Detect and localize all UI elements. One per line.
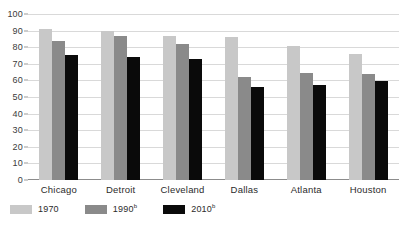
bar bbox=[349, 54, 362, 180]
bar bbox=[127, 57, 140, 180]
bar bbox=[163, 36, 176, 180]
bar-groups bbox=[28, 14, 399, 180]
y-axis-tick-label: 10 bbox=[13, 158, 23, 168]
legend-label-2010: 2010b bbox=[191, 204, 215, 214]
x-axis-label-houston: Houston bbox=[337, 184, 399, 200]
y-axis: 1009080706050403020100 bbox=[0, 14, 28, 180]
y-axis-tick-label: 20 bbox=[13, 142, 23, 152]
bar bbox=[176, 44, 189, 180]
bar bbox=[225, 37, 238, 180]
legend-swatch-2010 bbox=[163, 205, 185, 214]
bar bbox=[52, 41, 65, 180]
bar bbox=[287, 46, 300, 180]
bar bbox=[313, 85, 326, 180]
bar bbox=[362, 74, 375, 180]
y-axis-tick-label: 70 bbox=[13, 59, 23, 69]
chart-legend: 19701990b2010b bbox=[10, 204, 242, 214]
x-axis-label-chicago: Chicago bbox=[28, 184, 90, 200]
y-axis-tick-label: 30 bbox=[13, 125, 23, 135]
x-axis-label-cleveland: Cleveland bbox=[152, 184, 214, 200]
bar-group bbox=[28, 14, 90, 180]
legend-footnote-marker: b bbox=[134, 203, 138, 209]
bar-chart: 1009080706050403020100 ChicagoDetroitCle… bbox=[0, 0, 403, 225]
y-axis-tick-label: 100 bbox=[7, 9, 23, 19]
y-axis-tick-label: 80 bbox=[13, 42, 23, 52]
bar bbox=[65, 55, 78, 180]
y-axis-tick-label: 60 bbox=[13, 75, 23, 85]
x-axis-label-detroit: Detroit bbox=[90, 184, 152, 200]
bar bbox=[39, 29, 52, 180]
legend-label-1970: 1970 bbox=[38, 204, 59, 214]
bar-group bbox=[90, 14, 152, 180]
y-axis-tick-label: 40 bbox=[13, 109, 23, 119]
bar bbox=[238, 77, 251, 180]
bar-group bbox=[275, 14, 337, 180]
bar bbox=[101, 31, 114, 180]
bar-group bbox=[213, 14, 275, 180]
bar-group bbox=[152, 14, 214, 180]
legend-swatch-1970 bbox=[10, 205, 32, 214]
plot-area bbox=[28, 14, 399, 180]
legend-item-2010[interactable]: 2010b bbox=[163, 204, 215, 214]
x-axis-label-atlanta: Atlanta bbox=[275, 184, 337, 200]
bar bbox=[375, 81, 388, 180]
x-axis-label-dallas: Dallas bbox=[213, 184, 275, 200]
bar bbox=[251, 87, 264, 180]
bar bbox=[189, 59, 202, 180]
legend-swatch-1990 bbox=[85, 205, 107, 214]
bar bbox=[114, 36, 127, 180]
y-axis-tick-label: 50 bbox=[13, 92, 23, 102]
bar-group bbox=[337, 14, 399, 180]
bar bbox=[300, 73, 313, 180]
legend-footnote-marker: b bbox=[212, 203, 216, 209]
y-axis-tick-label: 0 bbox=[18, 175, 23, 185]
legend-label-1990: 1990b bbox=[113, 204, 137, 214]
x-axis-labels: ChicagoDetroitClevelandDallasAtlantaHous… bbox=[28, 184, 399, 200]
legend-item-1990[interactable]: 1990b bbox=[85, 204, 137, 214]
y-axis-tick-label: 90 bbox=[13, 26, 23, 36]
legend-item-1970[interactable]: 1970 bbox=[10, 204, 59, 214]
